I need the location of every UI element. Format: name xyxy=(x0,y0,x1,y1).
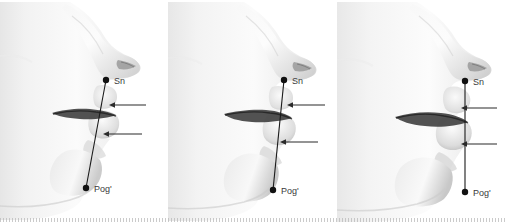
face-silhouette-1 xyxy=(0,2,141,220)
landmark-sn-2 xyxy=(281,77,287,83)
face-silhouette-3 xyxy=(337,2,492,222)
landmark-pog-1 xyxy=(83,185,89,191)
lower-lip-arrow-3 xyxy=(461,141,497,147)
lower-lip-arrow-2 xyxy=(280,139,318,145)
profile-drawing-1: Sn Pog' xyxy=(0,0,168,224)
landmark-sn-3 xyxy=(462,78,468,84)
label-sn-2: Sn xyxy=(292,76,303,86)
label-sn-3: Sn xyxy=(473,77,484,87)
baseline-texture xyxy=(0,218,505,222)
landmark-pog-3 xyxy=(462,189,468,195)
profile-drawing-2: Sn Pog' xyxy=(168,0,337,224)
landmark-sn-1 xyxy=(103,77,109,83)
profile-panel-1: Sn Pog' xyxy=(0,0,168,224)
label-sn-1: Sn xyxy=(114,76,125,86)
landmark-pog-2 xyxy=(270,187,276,193)
profile-panel-3: Sn Pog' xyxy=(337,0,505,224)
upper-lip-arrow-2 xyxy=(287,102,325,108)
upper-lip-arrow-3 xyxy=(461,105,497,111)
profile-panel-2: Sn Pog' xyxy=(168,0,337,224)
label-pog-3: Pog' xyxy=(473,188,491,198)
label-pog-1: Pog' xyxy=(94,184,112,194)
upper-lip-arrow-1 xyxy=(109,102,146,108)
label-pog-2: Pog' xyxy=(281,186,299,196)
facial-profile-figure: Sn Pog' xyxy=(0,0,505,224)
lower-lip-arrow-1 xyxy=(103,131,142,137)
profile-drawing-3: Sn Pog' xyxy=(337,0,505,224)
